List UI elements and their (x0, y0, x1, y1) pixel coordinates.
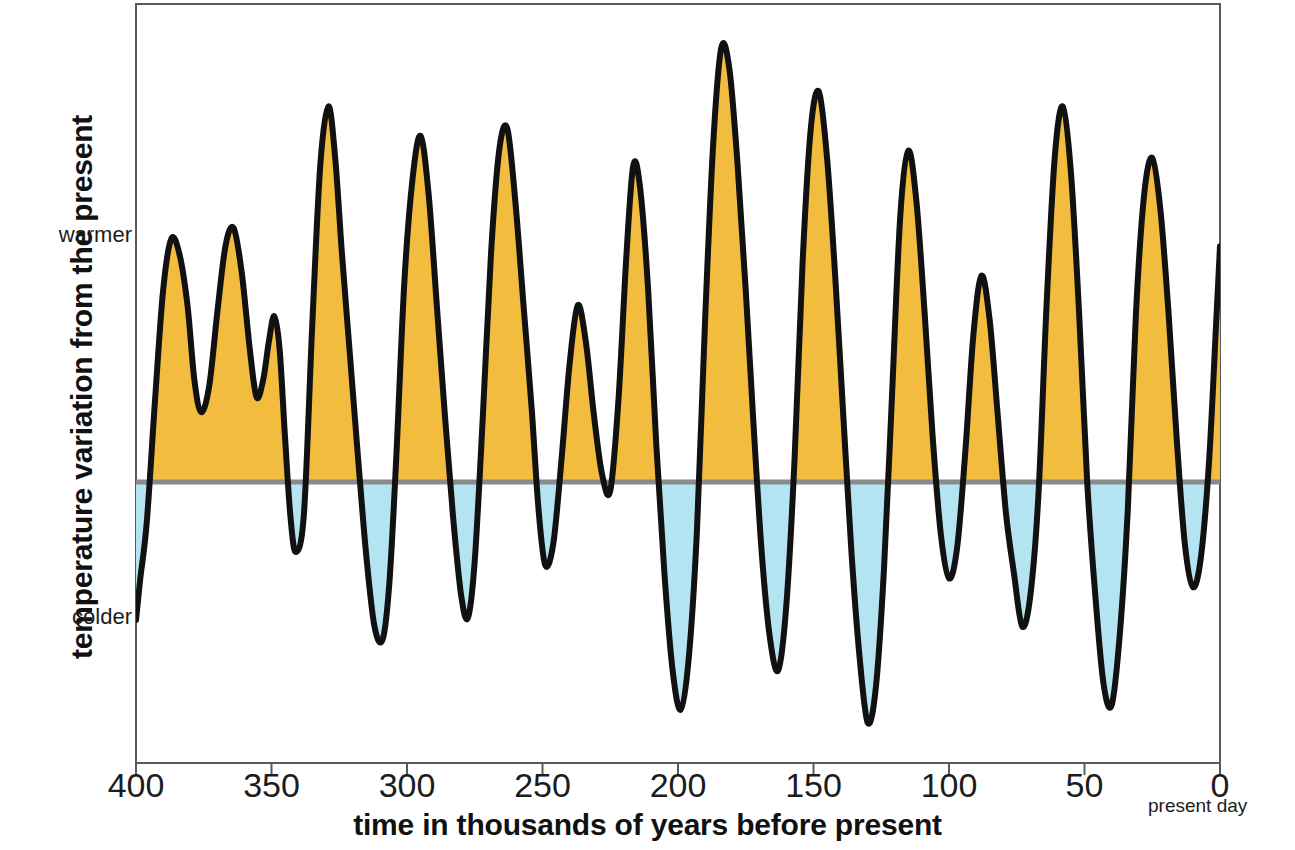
y-annotation-warmer: warmer (59, 222, 132, 248)
x-tick-label: 100 (921, 766, 978, 805)
x-tick-label: 150 (785, 766, 842, 805)
y-axis-title: temperature variation from the present (65, 7, 99, 767)
x-axis-title: time in thousands of years before presen… (0, 808, 1295, 842)
x-tick-label: 200 (650, 766, 707, 805)
x-tick-label: 300 (379, 766, 436, 805)
x-tick-label: 350 (243, 766, 300, 805)
x-tick-label: 50 (1066, 766, 1104, 805)
present-day-note: present day (1148, 795, 1247, 817)
plot-area (0, 0, 1295, 850)
x-tick-label: 250 (514, 766, 571, 805)
x-tick-label: 400 (108, 766, 165, 805)
y-annotation-colder: colder (72, 604, 132, 630)
chart-figure: temperature variation from the present w… (0, 0, 1295, 850)
